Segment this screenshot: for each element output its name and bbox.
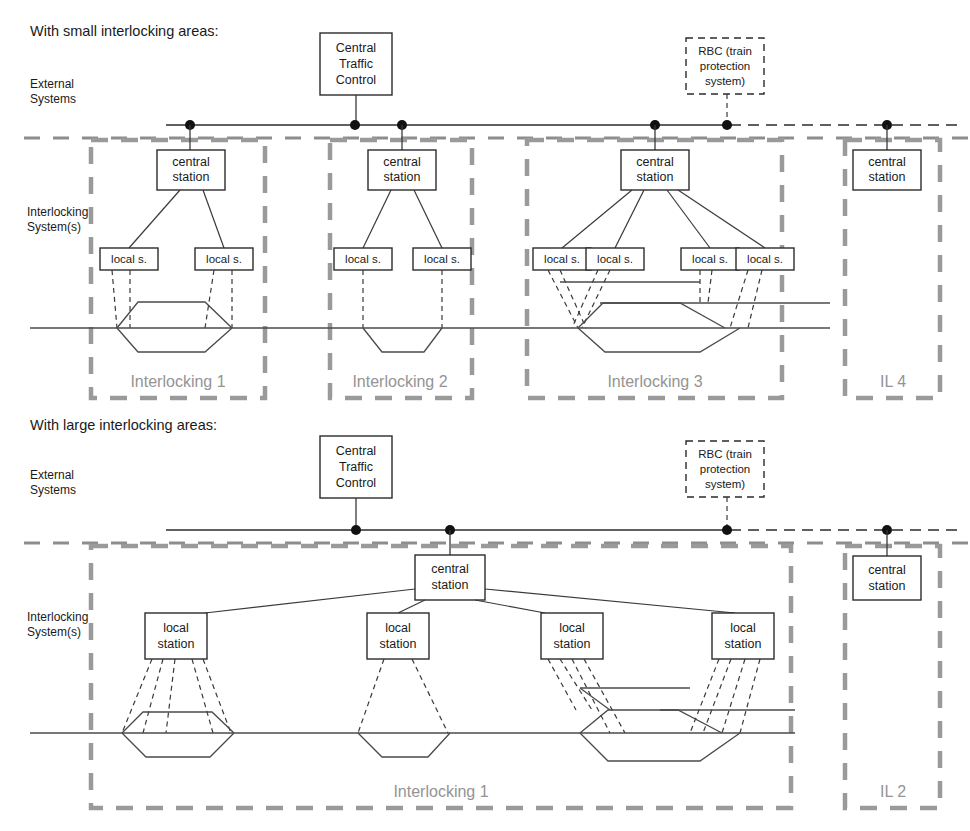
top-z3-local-station-1-label: local s. [544, 253, 580, 265]
bottom-z1-ctrl-4d [740, 659, 760, 733]
top-zone-4-label: IL 4 [880, 373, 906, 390]
top-zone-1-label: Interlocking 1 [130, 373, 225, 390]
bottom-zone-2-label: IL 2 [880, 783, 906, 800]
top-bus-junction-2 [350, 120, 360, 130]
top-z2-central-station-line2: station [384, 170, 421, 184]
bottom-z1-ctrl-4a [690, 659, 719, 733]
top-z1-lower-siding [117, 328, 232, 352]
bottom-z1-central-station-line2: station [432, 578, 469, 592]
bottom-z1-ctrl-1a [122, 659, 152, 733]
top-zone-interlocking-3: Interlocking 3 central station local s. … [500, 125, 830, 398]
top-z4-central-station-line1: central [868, 155, 906, 169]
bottom-z1-ctrl-4b [703, 659, 731, 733]
top-z2-link-2 [414, 190, 442, 248]
top-rbc-label-line1: RBC (train [698, 45, 752, 57]
bottom-z2-central-station-line1: central [868, 563, 906, 577]
bottom-rbc-label-line2: protection [700, 463, 751, 475]
top-z1-link-1 [129, 190, 180, 248]
top-z1-upper-siding [117, 302, 232, 328]
bottom-z1-ctrl-2a [358, 659, 384, 733]
bottom-z1-ctrl-2b [412, 659, 448, 733]
top-z1-local-station-1-label: local s. [111, 253, 147, 265]
bottom-z1-siding-2-lower [358, 733, 450, 757]
bottom-central-traffic-control-node: Central Traffic Control [320, 436, 392, 530]
top-z2-lower-siding [363, 328, 442, 352]
top-z3-ctrl-7 [730, 270, 748, 328]
bottom-interlocking-systems-label-line1: Interlocking [27, 610, 88, 624]
bottom-z1-ctrl-1d [192, 659, 213, 733]
top-z2-local-station-2-label: local s. [424, 253, 460, 265]
top-ctc-label-line3: Control [336, 73, 376, 87]
bottom-rbc-label-line3: system) [705, 478, 745, 490]
top-z3-link-2 [615, 190, 644, 248]
top-bus-junction-5 [722, 120, 732, 130]
bottom-z1-ctrl-3a [548, 659, 576, 710]
top-z1-ctrl-3 [205, 270, 214, 328]
bottom-ctc-label-line3: Control [336, 476, 376, 490]
bottom-z1-local-station-1-line1: local [163, 621, 189, 635]
bottom-rbc-label-line1: RBC (train [698, 448, 752, 460]
bottom-z1-local-station-2-line1: local [385, 621, 411, 635]
top-rbc-label-line2: protection [700, 60, 751, 72]
bottom-section: With large interlocking areas: External … [24, 417, 970, 808]
top-z2-central-station-line1: central [383, 155, 421, 169]
bottom-bus-junction-1 [351, 525, 361, 535]
bottom-z1-ctrl-4c [722, 659, 745, 733]
top-z3-central-station-line1: central [636, 155, 674, 169]
bottom-z1-local-station-3-box [541, 613, 603, 659]
bottom-z1-local-station-3-line1: local [559, 621, 585, 635]
top-z3-ctrl-3 [572, 270, 598, 328]
bottom-z1-local-station-4-box [712, 613, 774, 659]
bottom-z1-siding-3-upper [580, 710, 722, 733]
bottom-z1-local-station-3-line2: station [554, 637, 591, 651]
top-z3-link-3 [667, 190, 710, 248]
bottom-z2-central-station-line2: station [869, 579, 906, 593]
top-z4-central-station-line2: station [869, 170, 906, 184]
bottom-interlocking-systems-label-line2: System(s) [27, 625, 81, 639]
bottom-z1-central-station-line1: central [431, 562, 469, 576]
top-z3-ctrl-8 [748, 270, 762, 328]
top-z1-central-station-line2: station [173, 170, 210, 184]
top-z2-local-station-1-label: local s. [345, 253, 381, 265]
bottom-ctc-label-line1: Central [336, 444, 376, 458]
top-z3-link-1 [562, 190, 632, 248]
bottom-z1-local-station-1-box [145, 613, 207, 659]
top-z2-link-1 [363, 190, 391, 248]
top-external-systems-label-line2: Systems [30, 92, 76, 106]
bottom-bus-junction-3 [722, 525, 732, 535]
bottom-z1-local-station-4-line2: station [725, 637, 762, 651]
top-zone-il-4: IL 4 central station [845, 125, 940, 398]
bottom-rbc-node: RBC (train protection system) [686, 441, 764, 530]
bottom-external-systems-label-line2: Systems [30, 483, 76, 497]
top-z1-link-2 [203, 190, 224, 248]
bottom-z1-link-3 [475, 600, 545, 613]
top-external-systems-label-line1: External [30, 77, 74, 91]
top-z3-local-station-3-label: local s. [692, 253, 728, 265]
bottom-z1-ctrl-1e [203, 659, 231, 733]
bottom-z1-local-station-2-line2: station [380, 637, 417, 651]
top-z3-local-station-4-label: local s. [747, 253, 783, 265]
bottom-z1-siding-1-upper [122, 712, 234, 733]
bottom-z1-local-station-4-line1: local [730, 621, 756, 635]
bottom-zone-il-2: IL 2 central station [845, 530, 940, 808]
bottom-z1-local-station-1-line2: station [158, 637, 195, 651]
top-z3-local-station-2-label: local s. [597, 253, 633, 265]
bottom-ctc-label-line2: Traffic [339, 460, 373, 474]
top-zone-interlocking-2: Interlocking 2 central station local s. … [288, 125, 500, 398]
bottom-z1-local-station-2-box [367, 613, 429, 659]
top-zone-interlocking-1: Interlocking 1 central station local s. … [30, 125, 288, 398]
bottom-external-systems-label-line1: External [30, 468, 74, 482]
bottom-z1-link-1 [205, 589, 415, 613]
bottom-section-title: With large interlocking areas: [30, 417, 217, 433]
bottom-z1-link-2 [398, 600, 425, 613]
bottom-zone-1-label: Interlocking 1 [393, 783, 488, 800]
top-zone-3-label: Interlocking 3 [607, 373, 702, 390]
top-z1-ctrl-1 [112, 270, 117, 328]
bottom-z1-ctrl-3b [560, 659, 592, 710]
bottom-zone-interlocking-1: Interlocking 1 central station local sta… [30, 530, 795, 808]
top-z3-link-4 [678, 190, 765, 248]
top-rbc-label-line3: system) [705, 75, 745, 87]
top-ctc-label-line2: Traffic [339, 57, 373, 71]
top-z3-upper-crossover [578, 303, 725, 328]
bottom-z1-siding-1-lower [122, 733, 234, 757]
